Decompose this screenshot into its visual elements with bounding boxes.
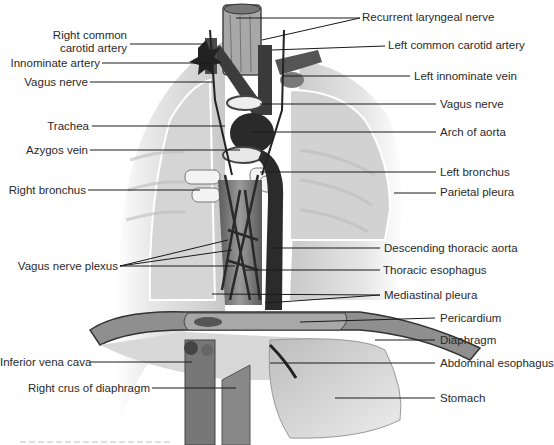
label-vagus-nerve-plexus: Vagus nerve plexus [0,260,118,273]
label-pericardium: Pericardium [440,312,501,325]
label-right-bronchus: Right bronchus [0,184,86,197]
label-vagus-nerve-left: Vagus nerve [440,98,504,111]
label-thoracic-esophagus: Thoracic esophagus [383,264,487,277]
label-vagus-nerve-right: Vagus nerve [0,76,88,89]
label-left-common-carotid-artery: Left common carotid artery [388,39,525,52]
label-recurrent-laryngeal-nerve: Recurrent laryngeal nerve [362,11,494,24]
label-right-common-carotid-artery: Right common carotid artery [40,29,127,55]
thoracic-esophagus [218,180,262,305]
label-arch-of-aorta: Arch of aorta [440,126,506,139]
label-right-crus-of-diaphragm: Right crus of diaphragm [0,382,150,395]
label-stomach: Stomach [440,392,485,405]
label-left-innominate-vein: Left innominate vein [414,70,517,83]
clipped-caption [20,438,170,445]
label-mediastinal-pleura: Mediastinal pleura [384,289,477,302]
label-parietal-pleura: Parietal pleura [440,186,514,199]
label-innominate-artery: Innominate artery [0,57,100,70]
label-inferior-vena-cava: Inferior vena cava [0,356,88,369]
inferior-vena-cava [185,340,215,445]
stomach [269,339,401,438]
right-bronchus [185,170,220,184]
label-diaphragm: Diaphragm [440,334,496,347]
label-azygos-vein: Azygos vein [0,144,88,157]
label-abdominal-esophagus: Abdominal esophagus [440,357,554,370]
label-left-bronchus: Left bronchus [440,166,510,179]
label-descending-thoracic-aorta: Descending thoracic aorta [384,242,518,255]
label-trachea: Trachea [0,120,89,133]
